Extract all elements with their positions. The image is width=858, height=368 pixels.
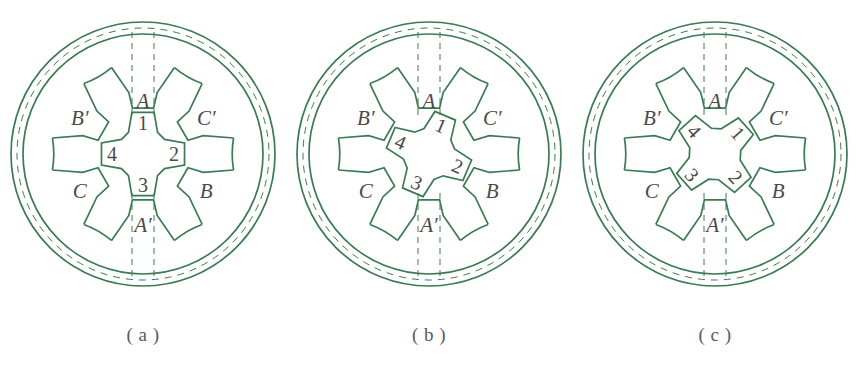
stator-outer-circle xyxy=(11,22,275,286)
stator-pole-label: C′ xyxy=(769,106,788,130)
stator-slot-arc xyxy=(624,138,625,170)
rotor-pole-number: 2 xyxy=(449,154,467,178)
rotor-pole-number: 1 xyxy=(726,122,749,144)
stator-dashed-circle xyxy=(17,28,269,280)
stator-slot-arc xyxy=(84,224,112,240)
stator-dashed-circle xyxy=(589,28,841,280)
motor-diagram-a: AC′BA′CB′1234 xyxy=(8,14,278,304)
stator-pole-label: B′ xyxy=(71,106,89,130)
stator-slot-arc xyxy=(232,138,233,170)
stator-pole-label: B′ xyxy=(643,106,661,130)
stator-pole-label: B′ xyxy=(357,106,375,130)
stator-pole-label: A xyxy=(707,89,722,113)
rotor-pole-number: 1 xyxy=(138,112,148,134)
stator-slot-arc xyxy=(370,68,398,84)
stator-slot-arc xyxy=(656,224,684,240)
stator-pole-label: C′ xyxy=(483,106,502,130)
stator-slot-arc xyxy=(746,68,774,84)
stator-slot-arc xyxy=(370,224,398,240)
motor-diagram-b: AC′BA′CB′1234 xyxy=(294,14,564,304)
stator-slot-arc xyxy=(338,138,339,170)
stator-pole-label: B xyxy=(772,179,785,203)
stator-pole-label: C xyxy=(73,179,88,203)
motor-diagram-c: AC′BA′CB′1234 xyxy=(580,14,850,304)
stator-slot-arc xyxy=(746,224,774,240)
stator-yoke-circle xyxy=(309,34,549,274)
stator-pole-label: A xyxy=(135,89,150,113)
rotor-pole-number: 3 xyxy=(408,170,426,194)
stator-slot-arc xyxy=(84,68,112,84)
stator-slot-arc xyxy=(460,224,488,240)
stator-slot-arc xyxy=(174,224,202,240)
stator-slot-arc xyxy=(804,138,805,170)
stator-pole-label: A′ xyxy=(132,213,152,237)
stator-slot-arc xyxy=(656,68,684,84)
panel-caption-a: ( a ) xyxy=(0,324,286,346)
stator-dashed-circle xyxy=(303,28,555,280)
stator-pole-label: B xyxy=(486,179,499,203)
stator-pole-label: C xyxy=(359,179,374,203)
stator-outer-circle xyxy=(583,22,847,286)
panel-caption-c: ( c ) xyxy=(572,324,858,346)
stator-slot-arc xyxy=(518,138,519,170)
rotor-pole-number: 2 xyxy=(169,143,179,165)
stator-pole-label: A′ xyxy=(418,213,438,237)
stator-pole-label: C xyxy=(645,179,660,203)
stator-slot-arc xyxy=(174,68,202,84)
panel-caption-b: ( b ) xyxy=(286,324,572,346)
rotor-pole-number: 4 xyxy=(392,130,410,154)
stator-pole-label: C′ xyxy=(197,106,216,130)
motor-panel-b: AC′BA′CB′1234 ( b ) xyxy=(286,0,572,368)
rotor-pole-number: 4 xyxy=(107,143,117,165)
stator-slot-arc xyxy=(52,138,53,170)
motor-panel-a: AC′BA′CB′1234 ( a ) xyxy=(0,0,286,368)
rotor-pole-number: 3 xyxy=(138,174,148,196)
rotor-pole-number: 1 xyxy=(432,113,450,137)
figure-row: AC′BA′CB′1234 ( a ) AC′BA′CB′1234 ( b ) … xyxy=(0,0,858,368)
stator-outer-circle xyxy=(297,22,561,286)
stator-pole-label: A xyxy=(421,89,436,113)
motor-panel-c: AC′BA′CB′1234 ( c ) xyxy=(572,0,858,368)
stator-pole-label: A′ xyxy=(704,213,724,237)
stator-yoke-circle xyxy=(595,34,835,274)
stator-yoke-circle xyxy=(23,34,263,274)
stator-pole-label: B xyxy=(200,179,213,203)
stator-slot-arc xyxy=(460,68,488,84)
